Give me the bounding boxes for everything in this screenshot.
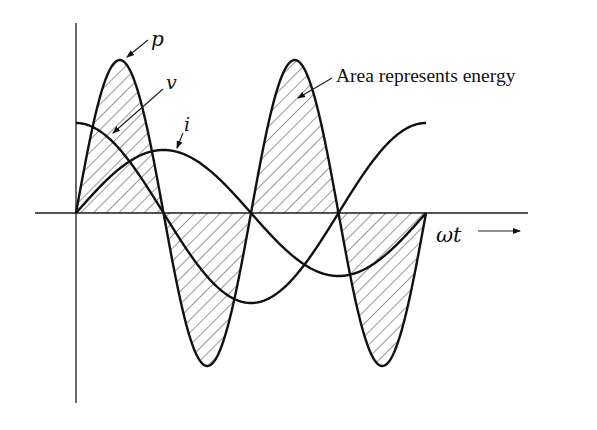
i-label: i xyxy=(184,113,190,135)
p-pointer-arrow xyxy=(127,40,148,57)
power-waveform-diagram: p v i Area represents energy ωt xyxy=(0,0,597,430)
area-annotation: Area represents energy xyxy=(336,65,516,86)
x-axis-label: ωt xyxy=(436,223,462,247)
v-label: v xyxy=(166,71,177,93)
p-label: p xyxy=(151,27,164,51)
i-pointer-arrow xyxy=(177,133,183,148)
